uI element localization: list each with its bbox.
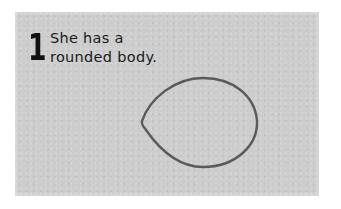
- rounded-body-outline-icon: [0, 0, 341, 209]
